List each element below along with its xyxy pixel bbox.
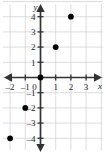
y-axis-label: y bbox=[33, 2, 38, 12]
plot-area: –2–1123 –4–3–2–11234 0 x y bbox=[0, 0, 106, 154]
svg-text:2: 2 bbox=[69, 82, 74, 92]
data-point bbox=[22, 105, 28, 111]
svg-text:3: 3 bbox=[31, 27, 36, 37]
svg-text:–4: –4 bbox=[26, 134, 37, 144]
svg-text:1: 1 bbox=[53, 82, 58, 92]
svg-text:1: 1 bbox=[31, 58, 36, 68]
data-point bbox=[68, 14, 74, 20]
svg-text:–2: –2 bbox=[5, 82, 15, 92]
x-axis-label: x bbox=[97, 81, 102, 91]
svg-text:–3: –3 bbox=[26, 118, 37, 128]
svg-text:2: 2 bbox=[31, 42, 36, 52]
origin-label: 0 bbox=[32, 82, 37, 92]
data-point bbox=[38, 75, 44, 81]
svg-text:3: 3 bbox=[84, 82, 89, 92]
coordinate-plane-figure: –2–1123 –4–3–2–11234 0 x y bbox=[0, 0, 106, 154]
scatter-plot-svg: –2–1123 –4–3–2–11234 0 x y bbox=[0, 0, 106, 154]
data-point bbox=[53, 44, 59, 50]
svg-text:4: 4 bbox=[31, 12, 36, 22]
data-point bbox=[7, 135, 13, 141]
